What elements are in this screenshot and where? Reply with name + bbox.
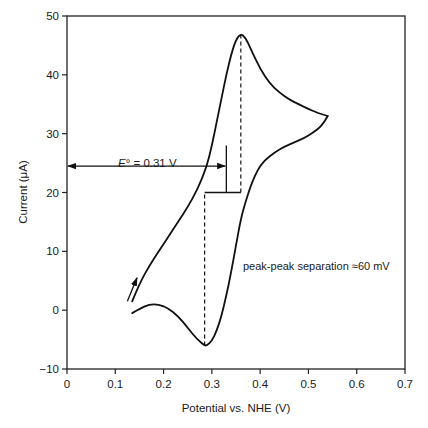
x-tick-label: 0.5 xyxy=(300,378,316,390)
x-axis-ticks: 00.10.20.30.40.50.60.7 xyxy=(64,369,413,390)
e0-value: ° = 0.31 V xyxy=(126,157,177,169)
x-tick-label: 0.3 xyxy=(204,378,220,390)
x-tick-label: 0.6 xyxy=(349,378,365,390)
annotations xyxy=(68,34,241,346)
x-tick-label: 0.2 xyxy=(156,378,172,390)
y-tick-label: 10 xyxy=(46,245,59,257)
y-tick-label: 20 xyxy=(46,187,59,199)
cathodic-sweep-line xyxy=(132,116,328,346)
y-axis-ticks: −1001020304050 xyxy=(39,10,67,375)
y-tick-label: 40 xyxy=(46,69,59,81)
y-tick-label: 0 xyxy=(53,304,59,316)
sweep-direction-arrow-icon xyxy=(127,278,137,302)
e0-label: E° = 0.31 V xyxy=(118,157,177,169)
y-axis-label: Current (μA) xyxy=(17,160,29,224)
x-axis-label: Potential vs. NHE (V) xyxy=(182,402,291,414)
cyclic-voltammogram-chart: 00.10.20.30.40.50.60.7 −1001020304050 Po… xyxy=(0,0,428,428)
x-tick-label: 0.1 xyxy=(107,378,123,390)
data-series xyxy=(132,35,328,346)
y-tick-label: 50 xyxy=(46,10,59,22)
x-tick-label: 0.7 xyxy=(397,378,413,390)
x-tick-label: 0.4 xyxy=(252,378,269,390)
peak-separation-label: peak-peak separation ≈60 mV xyxy=(243,260,390,272)
x-tick-label: 0 xyxy=(64,378,70,390)
y-tick-label: −10 xyxy=(39,363,59,375)
y-tick-label: 30 xyxy=(46,128,59,140)
